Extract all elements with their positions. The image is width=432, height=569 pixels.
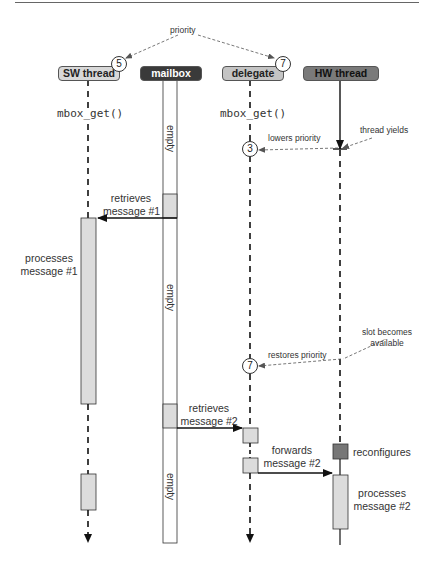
lane-header-sw-thread: SW thread (58, 66, 120, 81)
restored-priority-badge: 7 (242, 358, 258, 374)
sw-priority-badge: 5 (111, 56, 127, 72)
mailbox-empty-label-2: empty (165, 283, 176, 313)
sw-mbox-get-call: mbox_get() (57, 108, 123, 121)
slot-becomes-available-label: slot becomes available (361, 327, 413, 348)
priority-arrow-sw (126, 35, 178, 58)
sw-end-arrow (84, 534, 92, 543)
priority-label: priority (170, 25, 196, 36)
mailbox-empty-label-3: empty (165, 472, 176, 502)
retrieves-message-1-label: retrieves message #1 (103, 192, 159, 217)
hw-reconfigure-block (333, 444, 348, 459)
priority-arrow-delegate (198, 35, 274, 58)
lowered-priority-badge: 3 (242, 141, 258, 157)
mailbox-empty-label-1: empty (165, 124, 176, 154)
thread-yields-label: thread yields (360, 125, 408, 136)
delegate-activation-forward (243, 458, 258, 473)
processes-message-1-label: processes message #1 (20, 252, 78, 277)
lowers-priority-arrow (259, 148, 338, 150)
lane-header-delegate: delegate (222, 66, 284, 81)
mailbox-slot-message-2 (163, 404, 177, 428)
sequence-diagram-graphics (0, 0, 432, 569)
delegate-mbox-get-call: mbox_get() (220, 108, 286, 121)
delegate-activation-receive (243, 428, 258, 443)
retrieves-message-2-label: retrieves message #2 (180, 402, 238, 427)
hw-activation-processing-2 (333, 475, 348, 529)
reconfigures-label: reconfigures (353, 446, 411, 459)
delegate-end-arrow (246, 534, 254, 543)
restores-priority-label: restores priority (268, 350, 327, 361)
mailbox-slot-message-1 (163, 194, 177, 218)
lowers-priority-label: lowers priority (268, 133, 320, 144)
sw-activation-2 (81, 474, 96, 510)
forwards-message-2-label: forwards message #2 (262, 444, 322, 469)
processes-message-2-label: processes message #2 (352, 487, 412, 512)
lane-header-hw-thread: HW thread (303, 66, 379, 81)
lane-header-mailbox: mailbox (140, 66, 202, 81)
sw-activation-processing-1 (81, 218, 96, 404)
delegate-priority-badge: 7 (275, 56, 291, 72)
